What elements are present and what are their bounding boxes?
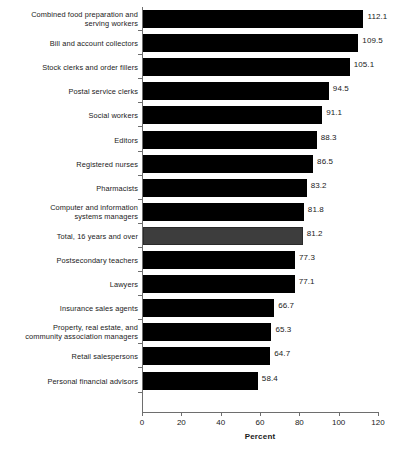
bar — [143, 155, 313, 173]
bar — [143, 179, 307, 197]
x-axis-tick-label: 0 — [122, 418, 162, 427]
bar-row: Pharmacists83.2 — [0, 176, 400, 200]
bar-wrapper — [143, 323, 271, 341]
bar — [143, 372, 258, 390]
bar-category-label: Stock clerks and order fillers — [6, 63, 138, 72]
bar-value-label: 81.2 — [307, 229, 323, 238]
bar-row: Total, 16 years and over81.2 — [0, 224, 400, 248]
bar-category-label-line: Personal financial advisors — [6, 377, 138, 386]
bar — [143, 10, 363, 28]
bar-value-label: 105.1 — [354, 60, 375, 69]
bar — [143, 34, 358, 52]
bar-wrapper — [143, 10, 363, 28]
x-axis-tick-label: 40 — [201, 418, 241, 427]
bar — [143, 251, 295, 269]
bar-wrapper — [143, 106, 322, 124]
bar-wrapper — [143, 131, 317, 149]
bar-category-label-line: Registered nurses — [6, 160, 138, 169]
bar-category-label-line: Total, 16 years and over — [6, 232, 138, 241]
bar-category-label: Total, 16 years and over — [6, 232, 138, 241]
bar-value-label: 65.3 — [275, 325, 291, 334]
bar-category-label-line: Combined food preparation and — [6, 10, 138, 19]
bar-category-label: Retail salespersons — [6, 352, 138, 361]
bar-category-label: Computer and informationsystems managers — [6, 203, 138, 221]
y-axis-tick — [138, 392, 142, 393]
bar-row: Lawyers77.1 — [0, 272, 400, 296]
bar-category-label-line: Computer and information — [6, 203, 138, 212]
bar-row: Retail salespersons64.7 — [0, 344, 400, 368]
bar-category-label: Lawyers — [6, 280, 138, 289]
bar-highlighted — [143, 227, 303, 245]
bar — [143, 131, 317, 149]
bar-wrapper — [143, 203, 304, 221]
bar-category-label-line: Postsecondary teachers — [6, 256, 138, 265]
bar-row: Stock clerks and order fillers105.1 — [0, 55, 400, 79]
bar-category-label-line: Lawyers — [6, 280, 138, 289]
x-axis-tick — [339, 412, 340, 416]
bar — [143, 106, 322, 124]
bar-category-label: Registered nurses — [6, 160, 138, 169]
bar — [143, 323, 271, 341]
bar — [143, 58, 350, 76]
bar-row: Registered nurses86.5 — [0, 152, 400, 176]
bar-wrapper — [143, 155, 313, 173]
bar-value-label: 66.7 — [278, 301, 294, 310]
x-axis-tick-label: 80 — [279, 418, 319, 427]
x-axis-tick — [299, 412, 300, 416]
bar-value-label: 86.5 — [317, 157, 333, 166]
bar-value-label: 112.1 — [367, 12, 387, 21]
bar — [143, 82, 329, 100]
bar — [143, 203, 304, 221]
bar-category-label: Social workers — [6, 111, 138, 120]
bar-value-label: 88.3 — [321, 133, 337, 142]
bar-category-label: Postsecondary teachers — [6, 256, 138, 265]
x-axis-title: Percent — [142, 432, 378, 441]
bar-value-label: 81.8 — [308, 205, 324, 214]
bar-value-label: 83.2 — [311, 181, 327, 190]
bar-wrapper — [143, 372, 258, 390]
bar-wrapper — [143, 251, 295, 269]
bar — [143, 299, 274, 317]
bar-row: Property, real estate, andcommunity asso… — [0, 320, 400, 344]
bar-value-label: 94.5 — [333, 84, 349, 93]
bar-category-label-line: serving workers — [6, 19, 138, 28]
bar-row: Social workers91.1 — [0, 103, 400, 127]
bar-row: Postsecondary teachers77.3 — [0, 248, 400, 272]
bar-value-label: 58.4 — [262, 374, 278, 383]
bar-category-label-line: Retail salespersons — [6, 352, 138, 361]
x-axis-tick-label: 120 — [358, 418, 398, 427]
x-axis-tick-label: 100 — [319, 418, 359, 427]
bar-value-label: 109.5 — [362, 36, 383, 45]
x-axis-tick — [142, 412, 143, 416]
bar-category-label: Combined food preparation andserving wor… — [6, 10, 138, 28]
x-axis-tick — [221, 412, 222, 416]
bar-category-label: Personal financial advisors — [6, 377, 138, 386]
bar — [143, 347, 270, 365]
bar-category-label-line: Property, real estate, and — [6, 323, 138, 332]
bar-wrapper — [143, 179, 307, 197]
bar-row: Postal service clerks94.5 — [0, 79, 400, 103]
bar-category-label-line: community association managers — [6, 332, 138, 341]
x-axis-tick-label: 20 — [161, 418, 201, 427]
bar-wrapper — [143, 34, 358, 52]
bar-wrapper — [143, 82, 329, 100]
bar-wrapper — [143, 227, 303, 245]
bar-category-label-line: systems managers — [6, 212, 138, 221]
x-axis-tick — [181, 412, 182, 416]
bar-chart: Combined food preparation andserving wor… — [0, 0, 400, 454]
bar-wrapper — [143, 347, 270, 365]
bar-value-label: 91.1 — [326, 108, 342, 117]
bar-row: Personal financial advisors58.4 — [0, 369, 400, 393]
bar — [143, 275, 295, 293]
bar-value-label: 77.3 — [299, 253, 315, 262]
bar-category-label: Bill and account collectors — [6, 39, 138, 48]
x-axis-tick — [378, 412, 379, 416]
bar-value-label: 77.1 — [299, 277, 315, 286]
bar-category-label: Postal service clerks — [6, 87, 138, 96]
bar-wrapper — [143, 299, 274, 317]
x-axis-tick-label: 60 — [240, 418, 280, 427]
bar-category-label-line: Social workers — [6, 111, 138, 120]
bar-category-label-line: Pharmacists — [6, 184, 138, 193]
bar-value-label: 64.7 — [274, 349, 290, 358]
bar-row: Editors88.3 — [0, 128, 400, 152]
